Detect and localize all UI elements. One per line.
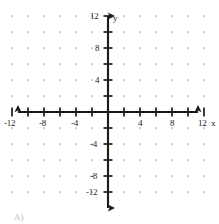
x-tick-label--12: -12 <box>4 118 15 128</box>
coordinate-plane-figure: -12 -8 -4 4 8 12 12 8 4 -4 -8 -12 x y A) <box>0 0 219 224</box>
x-tick-label--4: -4 <box>71 118 78 128</box>
y-tick-label-12: 12 <box>90 11 99 21</box>
y-axis-label: y <box>113 13 118 23</box>
choice-letter-label: A) <box>14 212 24 222</box>
x-axis-label: x <box>211 118 216 128</box>
y-tick-label-8: 8 <box>95 43 99 53</box>
y-tick-label--8: -8 <box>90 171 97 181</box>
y-tick-label-4: 4 <box>95 75 99 85</box>
coordinate-plane-svg <box>0 0 219 224</box>
x-tick-label-4: 4 <box>138 118 142 128</box>
y-tick-label--4: -4 <box>90 139 97 149</box>
x-tick-label-8: 8 <box>170 118 174 128</box>
y-tick-label--12: -12 <box>86 187 97 197</box>
x-tick-label-12: 12 <box>198 118 207 128</box>
x-tick-label--8: -8 <box>39 118 46 128</box>
